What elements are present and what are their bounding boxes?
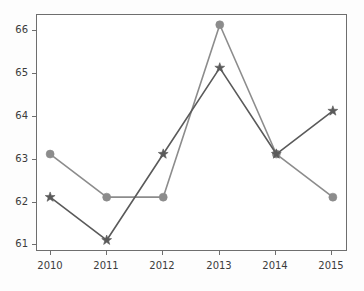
data-point-circle (46, 150, 54, 158)
data-point-circle (103, 193, 111, 201)
data-point-star (158, 149, 168, 158)
data-point-star (102, 235, 112, 244)
chart-figure: 66 65 64 63 62 61 2010 2011 2012 2013 20… (0, 0, 364, 291)
data-point-circle (329, 193, 337, 201)
chart-series-series-star (45, 63, 338, 245)
series-line (50, 68, 333, 240)
chart-plot-svg (0, 0, 364, 291)
data-point-star (215, 63, 225, 72)
data-point-circle (159, 193, 167, 201)
data-point-circle (216, 21, 224, 29)
